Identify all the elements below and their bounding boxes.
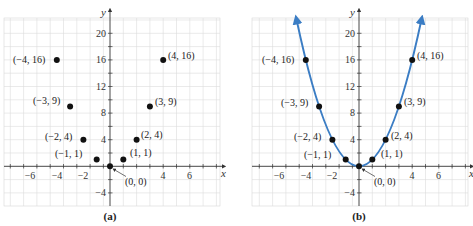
point-label: (3, 9)	[404, 96, 426, 108]
point-origin	[107, 163, 113, 169]
y-tick-label: −4	[95, 187, 106, 198]
point-m1	[343, 157, 349, 163]
x-tick-label: −6	[25, 170, 36, 181]
point-p2	[134, 137, 140, 143]
x-axis-label: x	[220, 167, 226, 179]
y-tick-label: 4	[350, 134, 355, 145]
point-label: (−4, 16)	[13, 54, 45, 66]
point-label: (4, 16)	[417, 50, 444, 62]
y-tick-label: 8	[101, 107, 106, 118]
point-label: (0, 0)	[125, 176, 147, 188]
y-tick-label: 20	[345, 28, 355, 39]
point-label: (0, 0)	[374, 176, 396, 188]
point-m3	[67, 104, 73, 110]
point-label: (−3, 9)	[33, 95, 60, 107]
x-tick-label: −4	[52, 170, 63, 181]
y-axis-label: y	[349, 6, 355, 18]
y-tick-label: 4	[101, 134, 106, 145]
y-tick-label: 16	[345, 54, 355, 65]
point-label: (4, 16)	[168, 50, 195, 62]
x-tick-label: −2	[78, 170, 89, 181]
x-tick-label: −2	[327, 170, 338, 181]
panel-caption: (a)	[104, 210, 117, 223]
point-m4	[303, 57, 309, 63]
point-m2	[80, 137, 86, 143]
point-p3	[147, 104, 153, 110]
point-p4	[409, 57, 415, 63]
x-tick-label: 4	[161, 170, 166, 181]
y-tick-label: 20	[96, 28, 106, 39]
point-label: (3, 9)	[155, 96, 177, 108]
point-m3	[316, 104, 322, 110]
y-tick-label: 12	[345, 81, 355, 92]
point-m4	[54, 57, 60, 63]
point-m1	[94, 157, 100, 163]
point-label: (−2, 4)	[294, 131, 321, 143]
y-tick-label: −4	[344, 187, 355, 198]
x-tick-label: 6	[187, 170, 192, 181]
y-axis-label: y	[100, 6, 106, 18]
y-tick-label: 12	[96, 81, 106, 92]
point-p4	[160, 57, 166, 63]
point-label: (−1, 1)	[304, 149, 331, 161]
point-label: (−1, 1)	[55, 148, 82, 160]
panel-a: −6 −4 −2 4 6 20 16 12 8 4 −4 x y (−4, 16…	[4, 6, 226, 223]
y-tick-label: 16	[96, 54, 106, 65]
point-m2	[329, 137, 335, 143]
y-tick-label: 8	[350, 107, 355, 118]
point-p2	[383, 137, 389, 143]
x-tick-label: −4	[301, 170, 312, 181]
point-origin	[356, 163, 362, 169]
point-p3	[396, 104, 402, 110]
figure: −6 −4 −2 4 6 20 16 12 8 4 −4 x y (−4, 16…	[0, 0, 473, 226]
point-label: (2, 4)	[141, 129, 163, 141]
point-label: (1, 1)	[381, 148, 403, 160]
point-label: (1, 1)	[130, 147, 152, 159]
point-p1	[369, 157, 375, 163]
panel-b: −6 −4 −2 4 6 20 16 12 8 4 −4 x y (−4, 16…	[252, 6, 473, 223]
point-label: (−4, 16)	[262, 54, 294, 66]
x-tick-label: 6	[436, 170, 441, 181]
point-label: (−2, 4)	[45, 131, 72, 143]
x-tick-label: 4	[410, 170, 415, 181]
point-p1	[120, 157, 126, 163]
x-axis-label: x	[468, 167, 473, 179]
panel-caption: (b)	[352, 210, 366, 223]
x-tick-label: −6	[274, 170, 285, 181]
point-label: (2, 4)	[391, 130, 413, 142]
point-label: (−3, 9)	[281, 97, 308, 109]
